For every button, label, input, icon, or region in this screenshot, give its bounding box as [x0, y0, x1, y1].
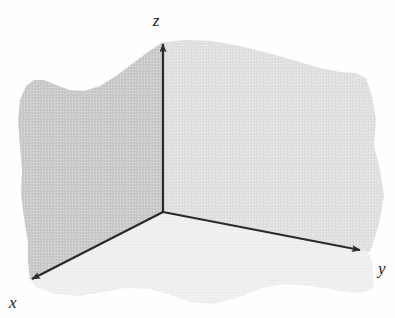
x-axis-label: x [8, 293, 17, 312]
coordinate-axes-figure: z y x [0, 0, 395, 318]
z-axis-label: z [152, 11, 160, 30]
y-axis-label: y [376, 259, 386, 278]
axes-diagram-svg: z y x [0, 0, 395, 318]
